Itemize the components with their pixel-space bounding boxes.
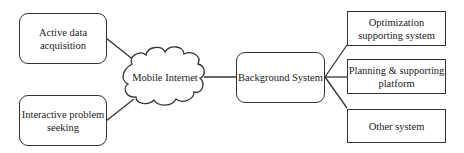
node-planning-supporting-platform: Planning & supporting platform bbox=[347, 59, 446, 94]
node-label: Other system bbox=[369, 120, 425, 133]
edge-core-to-other bbox=[325, 77, 347, 108]
node-interactive-problem-seeking: Interactive problem seeking bbox=[19, 95, 107, 146]
node-background-system: Background System bbox=[236, 52, 325, 103]
node-label: Planning & supporting platform bbox=[348, 64, 445, 90]
node-optimization-supporting-system: Optimization supporting system bbox=[347, 11, 446, 46]
node-other-system: Other system bbox=[347, 109, 446, 143]
edge-interactive-to-hub bbox=[106, 99, 134, 121]
node-active-data-acquisition: Active data acquisition bbox=[19, 13, 107, 64]
node-mobile-internet: Mobile Internet bbox=[126, 66, 204, 88]
node-label: Active data acquisition bbox=[32, 26, 94, 52]
node-label: Optimization supporting system bbox=[355, 16, 439, 42]
node-label: Interactive problem seeking bbox=[21, 108, 105, 134]
node-label: Background System bbox=[238, 71, 323, 84]
edge-active-to-hub bbox=[106, 38, 135, 61]
edge-core-to-optimization bbox=[325, 45, 347, 77]
node-label: Mobile Internet bbox=[132, 71, 198, 84]
